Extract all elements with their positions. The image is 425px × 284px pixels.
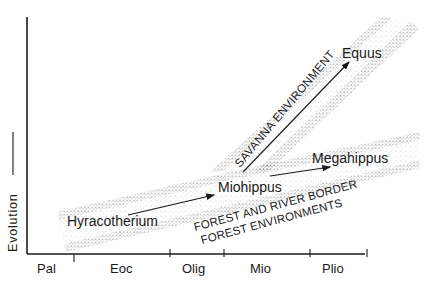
epoch-pal: Pal <box>37 261 56 276</box>
horse-evolution-diagram: Evolution Pal Eoc Olig Mio Plio Hyracoth… <box>0 0 425 284</box>
epoch-olig: Olig <box>182 261 205 276</box>
taxon-hyracotherium: Hyracotherium <box>67 213 158 229</box>
taxon-miohippus: Miohippus <box>218 179 282 195</box>
taxon-equus: Equus <box>342 45 382 61</box>
epoch-eoc: Eoc <box>110 261 133 276</box>
taxon-megahippus: Megahippus <box>312 150 388 166</box>
epoch-mio: Mio <box>250 261 271 276</box>
svg-text:Evolution: Evolution <box>6 193 20 252</box>
epoch-plio: Plio <box>322 261 344 276</box>
epoch-labels: Pal Eoc Olig Mio Plio <box>37 261 344 276</box>
y-axis-label: Evolution <box>6 132 20 252</box>
